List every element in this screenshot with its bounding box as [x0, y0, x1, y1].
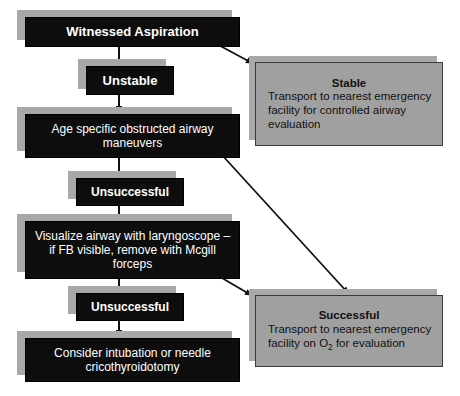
node-witnessed-aspiration[interactable]: Witnessed Aspiration: [25, 17, 240, 47]
node-stable-line-2: facility for controlled airway: [262, 104, 436, 118]
node-consider-intubation[interactable]: Consider intubation or needle cricothyro…: [25, 338, 240, 382]
node-stable-title: Stable: [262, 77, 436, 91]
node-unsuccessful-1[interactable]: Unsuccessful: [76, 178, 184, 206]
node-unsuccessful-1-label: Unsuccessful: [77, 185, 183, 199]
node-successful[interactable]: Successful Transport to nearest emergenc…: [255, 295, 443, 367]
node-unsuccessful-2-label: Unsuccessful: [77, 300, 183, 314]
node-age-specific-maneuvers-label: Age specific obstructed airway maneuvers: [26, 122, 239, 150]
node-successful-line-1: Transport to nearest emergency: [262, 323, 436, 337]
node-visualize-airway-label: Visualize airway with laryngoscope – if …: [26, 229, 239, 271]
node-successful-line-2: facility on O2 for evaluation: [262, 337, 436, 353]
flowchart-canvas: Witnessed Aspiration Unstable Age specif…: [0, 0, 460, 396]
node-unstable[interactable]: Unstable: [86, 66, 174, 95]
node-successful-line-2-post: for evaluation: [333, 337, 405, 349]
node-stable-line-1: Transport to nearest emergency: [262, 90, 436, 104]
connector-visualize-to-successful: [222, 278, 251, 295]
node-unstable-label: Unstable: [87, 73, 173, 88]
node-successful-title: Successful: [262, 309, 436, 323]
node-stable-line-3: evaluation: [262, 118, 436, 132]
connector-age-specific-to-successful: [222, 155, 348, 293]
node-stable[interactable]: Stable Transport to nearest emergency fa…: [255, 62, 443, 146]
node-successful-line-2-pre: facility on O: [268, 337, 328, 349]
node-witnessed-aspiration-label: Witnessed Aspiration: [26, 24, 239, 39]
node-age-specific-maneuvers[interactable]: Age specific obstructed airway maneuvers: [25, 114, 240, 158]
node-visualize-airway[interactable]: Visualize airway with laryngoscope – if …: [25, 221, 240, 279]
node-consider-intubation-label: Consider intubation or needle cricothyro…: [26, 346, 239, 374]
node-unsuccessful-2[interactable]: Unsuccessful: [76, 293, 184, 321]
